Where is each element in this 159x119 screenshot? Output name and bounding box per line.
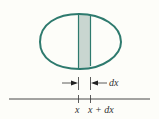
x-label: x xyxy=(75,105,79,115)
right-arrowhead-icon xyxy=(91,81,98,86)
left-arrowhead-icon xyxy=(71,81,78,86)
strip-region xyxy=(79,10,91,75)
x-plus-dx-label: x + dx xyxy=(88,105,114,115)
dx-label: dx xyxy=(109,78,118,88)
diagram-canvas xyxy=(0,0,159,119)
